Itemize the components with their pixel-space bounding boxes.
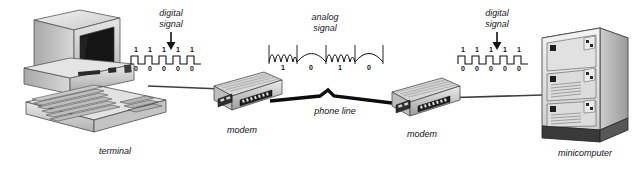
bit-low: 0 [487,65,495,72]
bit-low: 0 [174,65,182,72]
analog-signal-waveform: 1 0 1 0 [268,44,384,72]
terminal-label: terminal [80,146,150,156]
digital-signal-left-waveform: 1 1 1 1 1 0 0 0 0 0 [131,46,205,72]
bit-low: 0 [501,65,509,72]
bit-high: 1 [132,46,140,53]
modem-right-icon [384,76,464,130]
bit-low: 0 [132,65,140,72]
bit-high: 1 [473,46,481,53]
modem-right-label: modem [392,129,452,139]
minicomputer-label: minicomputer [540,148,630,158]
square-wave-icon [458,55,530,65]
bit-high: 1 [501,46,509,53]
network-diagram: terminal digital signal 1 1 1 1 1 0 0 0 … [0,0,644,170]
analog-bit: 1 [279,64,287,71]
digital-signal-left-label: digital signal [140,8,202,30]
bit-high: 1 [146,46,154,53]
bit-high: 1 [515,46,523,53]
sine-wave-icon [268,44,384,66]
digital-signal-right-waveform: 1 1 1 1 1 0 0 0 0 0 [458,46,532,72]
bit-high: 1 [459,46,467,53]
bit-low: 0 [459,65,467,72]
bit-low: 0 [146,65,154,72]
bit-high: 1 [160,46,168,53]
analog-bit: 0 [307,64,315,71]
bit-low: 0 [515,65,523,72]
bit-high: 1 [188,46,196,53]
bit-high: 1 [487,46,495,53]
analog-bit: 1 [336,64,344,71]
bit-high: 1 [174,46,182,53]
modem-left-icon [206,70,286,124]
digital-signal-right-label: digital signal [466,8,528,30]
analog-bit: 0 [365,64,373,71]
phone-line-label: phone line [300,106,370,116]
bit-low: 0 [160,65,168,72]
minicomputer-icon [534,26,636,150]
analog-signal-label: analog signal [294,12,356,34]
link-phone-line [270,90,392,103]
modem-left-label: modem [212,125,272,135]
bit-low: 0 [188,65,196,72]
bit-low: 0 [473,65,481,72]
square-wave-icon [131,55,203,65]
